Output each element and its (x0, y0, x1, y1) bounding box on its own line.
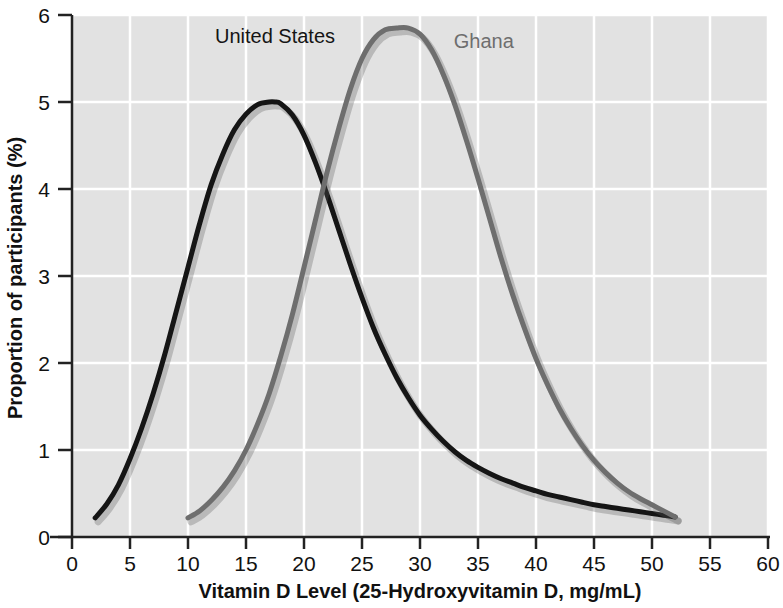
y-tick-label: 1 (38, 439, 50, 462)
series-label-ghana: Ghana (454, 30, 515, 52)
x-axis-title: Vitamin D Level (25-Hydroxyvitamin D, mg… (198, 580, 641, 602)
y-tick-label: 6 (38, 4, 50, 27)
x-tick-label: 30 (408, 552, 431, 575)
x-tick-label: 40 (524, 552, 547, 575)
y-tick-label: 2 (38, 352, 50, 375)
y-tick-label: 4 (38, 178, 50, 201)
series-label-united-states: United States (215, 25, 335, 47)
distribution-line-chart: 0510152025303540455055600123456 United S… (0, 0, 783, 608)
x-tick-label: 25 (350, 552, 373, 575)
x-tick-label: 35 (466, 552, 489, 575)
x-tick-label: 15 (234, 552, 257, 575)
x-tick-label: 60 (756, 552, 779, 575)
y-tick-label: 3 (38, 265, 50, 288)
x-tick-label: 5 (124, 552, 136, 575)
x-tick-label: 50 (640, 552, 663, 575)
x-tick-label: 55 (698, 552, 721, 575)
y-axis-title: Proportion of participants (%) (4, 137, 26, 419)
y-tick-label: 5 (38, 91, 50, 114)
y-tick-label: 0 (38, 526, 50, 549)
x-tick-label: 20 (292, 552, 315, 575)
x-tick-label: 0 (66, 552, 78, 575)
x-tick-label: 45 (582, 552, 605, 575)
chart-figure: 0510152025303540455055600123456 United S… (0, 0, 783, 608)
x-tick-label: 10 (176, 552, 199, 575)
